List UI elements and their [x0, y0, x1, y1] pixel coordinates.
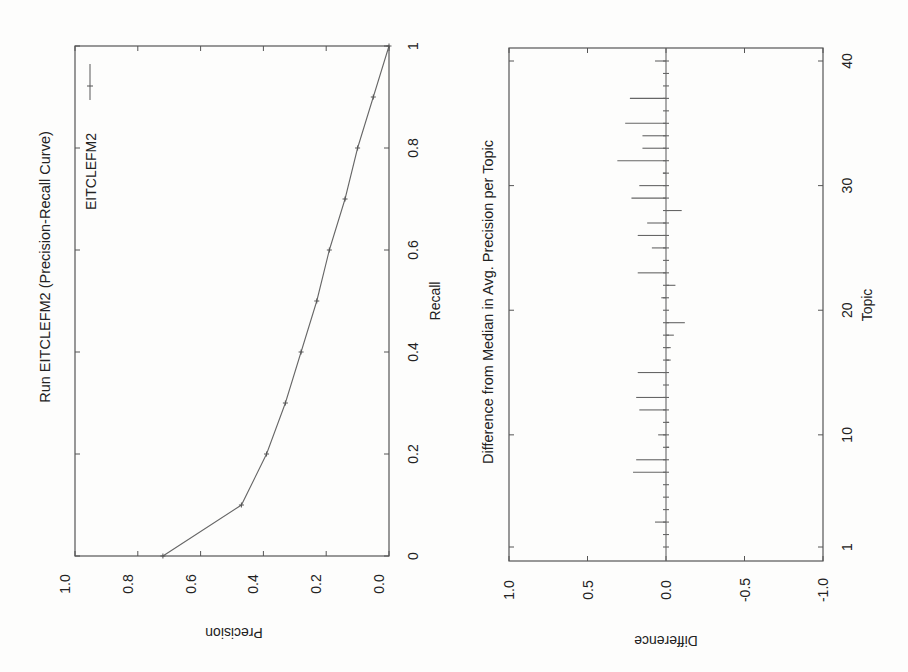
legend-label: EITCLEFM2	[83, 133, 99, 210]
pr-recall-tick-label: 0.6	[405, 240, 421, 260]
diff-value-tick-label: -1.0	[815, 578, 831, 602]
diff-topic-tick-label: 30	[839, 178, 855, 194]
pr-chart-title: Run EITCLEFM2 (Precision-Recall Curve)	[37, 131, 53, 403]
diff-topic-tick-label: 10	[839, 427, 855, 443]
pr-recall-tick-label: 0	[405, 552, 421, 560]
precision-recall-chart: Run EITCLEFM2 (Precision-Recall Curve) E…	[37, 42, 443, 641]
diff-topic-tick-label: 1	[839, 543, 855, 551]
diff-chart-title: Difference from Median in Avg. Precision…	[480, 140, 496, 464]
pr-precision-tick-label: 0.0	[371, 574, 387, 594]
pr-precision-tick-label: 1.0	[57, 574, 73, 594]
diff-bars	[617, 61, 685, 547]
rotated-figure: Run EITCLEFM2 (Precision-Recall Curve) E…	[0, 0, 908, 672]
difference-chart: Difference from Median in Avg. Precision…	[480, 48, 875, 649]
pr-precision-tick-label: 0.2	[308, 574, 324, 594]
diff-value-tick-label: 0.0	[658, 580, 674, 600]
diff-topic-tick-label: 20	[839, 302, 855, 318]
diff-value-tick-label: 0.5	[580, 580, 596, 600]
pr-series-eitclefm2	[160, 44, 391, 559]
pr-xaxis-label: Recall	[427, 282, 443, 321]
scanned-page: Run EITCLEFM2 (Precision-Recall Curve) E…	[0, 0, 908, 672]
diff-value-tick-label: 1.0	[501, 580, 517, 600]
diff-topic-tick-label: 40	[839, 53, 855, 69]
diff-yaxis-label: Difference	[634, 633, 698, 649]
pr-recall-tick-label: 0.2	[405, 444, 421, 464]
pr-legend: EITCLEFM2	[83, 64, 99, 210]
pr-precision-tick-label: 0.8	[120, 574, 136, 594]
pr-tick-labels: 00.20.40.60.810.00.20.40.60.81.0	[57, 42, 421, 594]
pr-recall-tick-label: 1	[405, 42, 421, 50]
pr-curve-line	[163, 46, 389, 556]
pr-recall-tick-label: 0.8	[405, 138, 421, 158]
diff-tick-labels: 110203040-1.0-0.50.00.51.0	[501, 53, 855, 602]
pr-yaxis-label: Precision	[205, 625, 263, 641]
diff-xaxis-label: Topic	[859, 289, 875, 322]
pr-precision-tick-label: 0.6	[183, 574, 199, 594]
pr-precision-tick-label: 0.4	[245, 574, 261, 594]
pr-axis-ticks	[75, 46, 389, 556]
pr-plot-frame	[75, 46, 389, 556]
diff-value-tick-label: -0.5	[737, 578, 753, 602]
pr-recall-tick-label: 0.4	[405, 342, 421, 362]
